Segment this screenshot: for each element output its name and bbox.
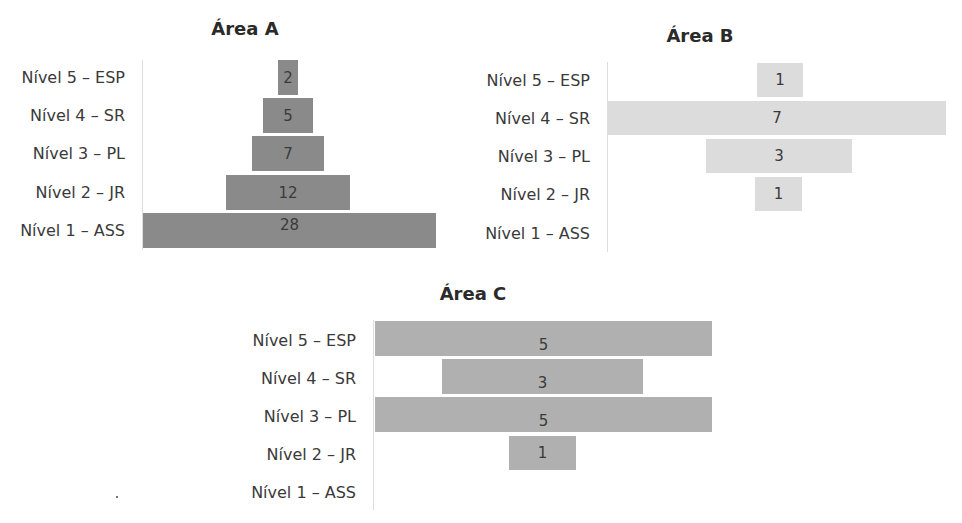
chart-a-bar-3: 7 — [252, 136, 324, 171]
chart-b-bar-3: 3 — [706, 139, 852, 173]
chart-c-bar-4: 3 — [442, 359, 643, 394]
chart-a-title: Área A — [185, 18, 305, 39]
chart-b-label-4: Nível 4 – SR — [440, 109, 590, 129]
chart-b-bar-5: 1 — [757, 63, 803, 97]
chart-c-title: Área C — [413, 283, 533, 304]
chart-a-label-2: Nível 2 – JR — [0, 183, 125, 203]
stray-dot — [116, 496, 118, 498]
chart-c-bar-3: 5 — [375, 397, 712, 432]
chart-a-bar-2: 12 — [226, 175, 350, 210]
chart-b-label-2: Nível 2 – JR — [440, 185, 590, 205]
chart-a-label-4: Nível 4 – SR — [0, 106, 125, 126]
chart-b-label-5: Nível 5 – ESP — [440, 71, 590, 91]
chart-a-bar-1: 28 — [143, 213, 436, 248]
chart-c-bar-5: 5 — [375, 321, 712, 356]
chart-b-title: Área B — [640, 25, 760, 46]
chart-c-label-2: Nível 2 – JR — [200, 445, 356, 465]
chart-a-bar-5: 2 — [278, 60, 298, 95]
chart-b-axis — [607, 62, 608, 252]
chart-b-bar-2: 1 — [755, 177, 802, 211]
chart-c-label-5: Nível 5 – ESP — [200, 331, 356, 351]
chart-a-label-1: Nível 1 – ASS — [0, 221, 125, 241]
chart-a-label-5: Nível 5 – ESP — [0, 68, 125, 88]
chart-a-bar-4: 5 — [263, 98, 313, 133]
chart-c-axis — [373, 320, 374, 510]
chart-c-label-3: Nível 3 – PL — [200, 407, 356, 427]
chart-b-bar-4: 7 — [608, 101, 946, 135]
chart-c-label-4: Nível 4 – SR — [200, 369, 356, 389]
chart-a-label-3: Nível 3 – PL — [0, 144, 125, 164]
chart-b-label-3: Nível 3 – PL — [440, 147, 590, 167]
chart-c-bar-2: 1 — [509, 436, 576, 470]
chart-c-label-1: Nível 1 – ASS — [200, 483, 356, 503]
chart-b-label-1: Nível 1 – ASS — [440, 224, 590, 244]
